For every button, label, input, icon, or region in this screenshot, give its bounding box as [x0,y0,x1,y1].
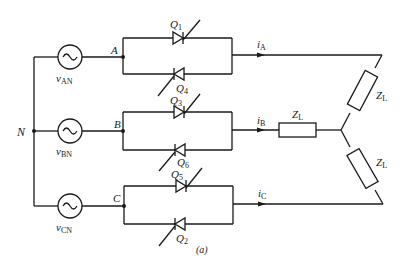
thyristor-Q2-icon [175,218,185,230]
current-label-iC: iC [258,187,266,201]
line-B: iB [232,114,279,133]
current-arrow-icon [257,128,265,133]
impedance-label-ZL-B: ZL [292,108,303,122]
thyristor-Q4-icon [174,68,184,80]
impedance-label-ZL-A: ZL [376,89,387,103]
node-label-B: B [114,118,121,130]
sine-wave-icon [63,128,77,134]
thyristor-pair-A: A Q1 Q4 [110,18,232,96]
thyristor-Q1-icon [173,32,183,44]
current-label-iA: iA [257,38,266,52]
neutral-label: N [16,125,26,139]
impedance-ZL-C-icon [347,149,378,189]
source-label-vAN: vAN [56,72,73,86]
node-label-C: C [113,192,121,204]
current-arrow-icon [258,202,266,207]
source-vBN: vBN [56,119,123,159]
sine-wave-icon [63,203,77,209]
thyristor-label-Q5: Q5 [171,168,183,182]
line-C: iC [233,187,383,207]
source-label-vCN: vCN [56,221,72,235]
line-A: iA [232,38,382,58]
impedance-ZL-B-icon [279,123,316,137]
current-arrow-icon [257,53,265,58]
three-phase-ac-controller-diagram: N vAN vBN vCN A [0,0,407,275]
sine-wave-icon [63,54,77,60]
source-label-vBN: vBN [56,145,72,159]
node-label-A: A [110,44,118,56]
thyristor-pair-B: B Q3 Q6 [114,94,232,171]
thyristor-pair-C: C Q5 Q2 [113,168,233,246]
neutral-node-dot [32,129,36,133]
thyristor-Q6-icon [175,144,185,156]
neutral-bus: N [16,57,58,206]
thyristor-label-Q1: Q1 [170,18,182,32]
figure-caption: (a) [196,244,208,256]
wye-load: ZL ZL ZL [279,55,387,204]
thyristor-label-Q3: Q3 [170,94,182,108]
impedance-ZL-A-icon [347,70,377,110]
current-label-iB: iB [257,114,265,128]
impedance-label-ZL-C: ZL [376,156,387,170]
thyristor-label-Q2: Q2 [176,232,188,246]
